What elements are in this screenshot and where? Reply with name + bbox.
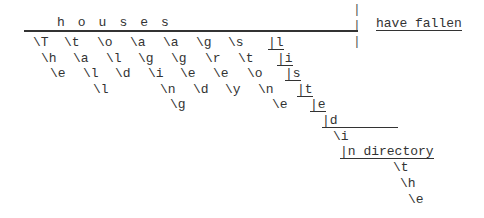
glyph-token: \y (225, 83, 241, 97)
glyph-token: \o (247, 67, 263, 81)
glyph-token: \e (213, 67, 229, 81)
glyph-token: \e (408, 193, 424, 207)
underlined-token: |i (277, 52, 293, 66)
glyph-token: \t (64, 36, 80, 50)
glyph-token: \g (171, 52, 187, 66)
glyph-token: \l (93, 83, 109, 97)
glyph-token: \t (393, 161, 409, 175)
underlined-token: |d (322, 114, 398, 128)
separator-mark: | (353, 3, 361, 17)
glyph-token: \o (97, 36, 113, 50)
glyph-token: \a (73, 52, 89, 66)
glyph-token: \i (148, 67, 164, 81)
underlined-token: |e (310, 98, 326, 112)
title-word: h o u s e s (57, 16, 171, 30)
glyph-token: \e (180, 67, 196, 81)
glyph-token: \h (400, 177, 416, 191)
main-rule (24, 30, 358, 32)
glyph-token: \n (160, 83, 176, 97)
glyph-token: \i (333, 130, 349, 144)
glyph-token: \d (193, 83, 209, 97)
glyph-token: \n (258, 83, 274, 97)
glyph-token: \l (83, 67, 99, 81)
glyph-token: \e (272, 98, 288, 112)
glyph-token: \g (196, 36, 212, 50)
right-phrase: have fallen (376, 17, 462, 31)
glyph-token: \d (115, 67, 131, 81)
glyph-token: \r (205, 52, 221, 66)
glyph-token: \s (228, 36, 244, 50)
glyph-token: \h (41, 52, 57, 66)
glyph-token: \l (106, 52, 122, 66)
glyph-token: \e (50, 67, 66, 81)
separator-mark: | (353, 35, 361, 49)
glyph-token: \T (33, 36, 49, 50)
directory-phrase: |n directory (340, 145, 434, 159)
glyph-token: \g (170, 98, 186, 112)
underlined-token: |t (297, 83, 313, 97)
underlined-token: |l (268, 36, 284, 50)
glyph-token: \a (130, 36, 146, 50)
glyph-token: \g (138, 52, 154, 66)
glyph-token: \a (163, 36, 179, 50)
underlined-token: |s (285, 67, 301, 81)
glyph-token: \t (238, 52, 254, 66)
